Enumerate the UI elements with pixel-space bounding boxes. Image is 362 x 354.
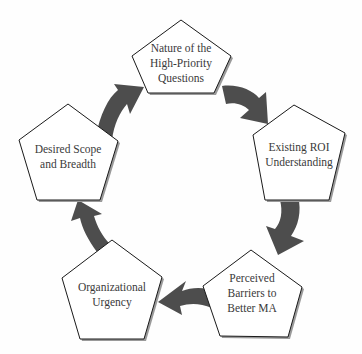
node-label-roi: Existing ROI Understanding [249,140,349,170]
label-line: and Breadth [18,157,118,172]
node-label-barriers: Perceived Barriers to Better MA [202,271,302,316]
label-line: Understanding [249,155,349,170]
label-line: Perceived [202,271,302,286]
node-label-urgency: Organizational Urgency [62,280,162,310]
label-line: Organizational [62,280,162,295]
arrow-roi-to-barriers [266,196,304,255]
label-line: Existing ROI [249,140,349,155]
node-label-scope: Desired Scope and Breadth [18,142,118,172]
label-line: High-Priority [131,56,231,71]
cycle-diagram: Nature of the High-Priority Questions Ex… [0,0,362,354]
label-line: Questions [131,71,231,86]
curved-arrow-icon [71,200,110,252]
curved-arrow-icon [222,86,268,124]
label-line: Nature of the [131,41,231,56]
node-label-nature: Nature of the High-Priority Questions [131,41,231,86]
curved-arrow-icon [266,196,304,255]
label-line: Barriers to [202,286,302,301]
arrow-urgency-to-scope [71,200,110,252]
arrow-nature-to-roi [222,86,268,124]
label-line: Better MA [202,301,302,316]
label-line: Desired Scope [18,142,118,157]
label-line: Urgency [62,295,162,310]
